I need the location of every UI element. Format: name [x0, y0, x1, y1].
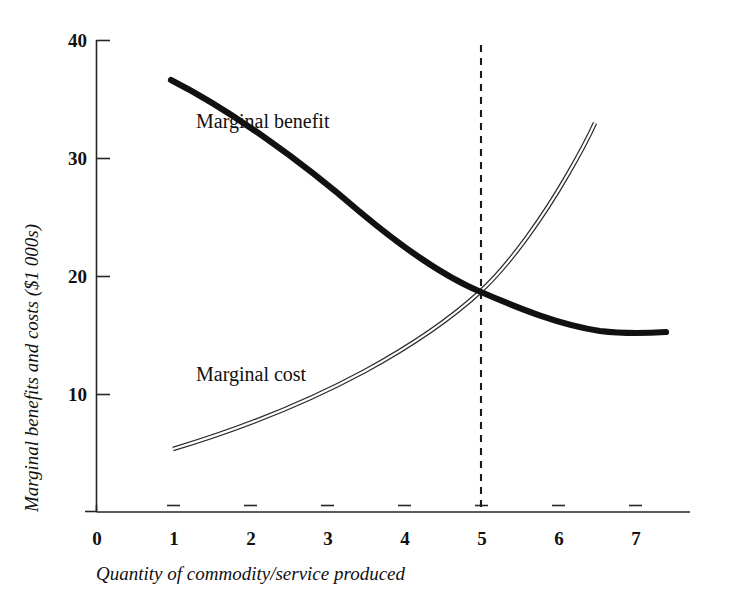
x-tick-label-7: 7 [631, 528, 641, 549]
y-tick-label-30: 30 [68, 148, 87, 169]
marginal-cost-curve-inner [173, 123, 595, 449]
x-axis-title: Quantity of commodity/service produced [96, 563, 406, 584]
chart-figure: 40 30 20 10 0 1 2 3 4 5 6 7 [0, 0, 740, 605]
x-tick-label-4: 4 [400, 528, 410, 549]
x-tick-label-3: 3 [323, 528, 333, 549]
x-tick-marks [97, 505, 643, 512]
marginal-cost-curve [173, 123, 595, 449]
axes-group [97, 40, 691, 512]
y-tick-labels: 40 30 20 10 [68, 30, 87, 405]
x-tick-label-1: 1 [169, 528, 179, 549]
x-tick-labels: 0 1 2 3 4 5 6 7 [92, 528, 641, 549]
x-tick-label-6: 6 [554, 528, 564, 549]
x-tick-label-0: 0 [92, 528, 102, 549]
marginal-cost-curve-outer [173, 123, 595, 449]
marginal-benefit-label: Marginal benefit [196, 110, 330, 133]
x-tick-label-5: 5 [477, 528, 487, 549]
marginal-analysis-chart: 40 30 20 10 0 1 2 3 4 5 6 7 [0, 0, 740, 605]
y-tick-label-20: 20 [68, 266, 87, 287]
y-tick-label-40: 40 [68, 30, 87, 51]
y-axis-title: Marginal benefits and costs ($1 000s) [21, 224, 43, 513]
marginal-cost-label: Marginal cost [196, 363, 307, 386]
y-tick-label-10: 10 [68, 384, 87, 405]
y-tick-marks [85, 41, 110, 512]
x-tick-label-2: 2 [246, 528, 256, 549]
